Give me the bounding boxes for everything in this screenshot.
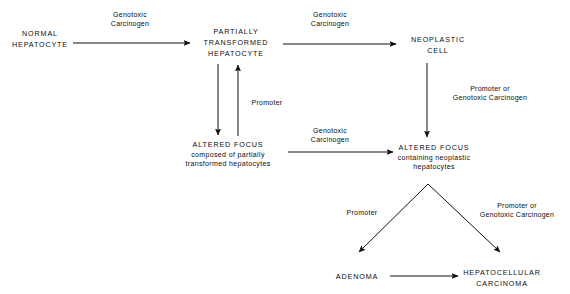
edge-label-promoter-or-genotoxic-carcinogen-2: Promoter or Genotoxic Carcinogen xyxy=(480,202,554,219)
edge-label-gen-3-line-2: Carcinogen xyxy=(311,136,349,144)
edge-label-gen-2-line-1: Genotoxic xyxy=(313,11,347,18)
node-adenoma-line-1: ADENOMA xyxy=(336,272,378,281)
node-altered-focus-a-line-1: ALTERED FOCUS xyxy=(193,140,264,149)
node-hcc-line-2: CARCINOMA xyxy=(476,279,528,288)
edge-label-gen-2-line-2: Carcinogen xyxy=(311,20,349,28)
node-altered-focus-b-line-2: containing neoplastic xyxy=(398,154,471,162)
edge-label-promoter-or-genotoxic-carcinogen-1: Promoter or Genotoxic Carcinogen xyxy=(453,85,527,102)
node-partially-transformed-line-1: PARTIALLY xyxy=(213,27,258,36)
node-normal-hepatocyte-line-1: NORMAL xyxy=(22,29,58,38)
node-normal-hepatocyte: NORMAL HEPATOCYTE xyxy=(12,29,68,49)
edge-label-promoter-fork: Promoter xyxy=(347,209,378,216)
node-altered-focus-b-line-1: ALTERED FOCUS xyxy=(399,143,470,152)
flow-diagram: NORMAL HEPATOCYTE PARTIALLY TRANSFORMED … xyxy=(0,0,570,294)
edge-label-gen-1-line-1: Genotoxic xyxy=(113,11,147,18)
node-hepatocellular-carcinoma: HEPATOCELLULAR CARCINOMA xyxy=(463,268,540,288)
edge-label-genotoxic-carcinogen-1: Genotoxic Carcinogen xyxy=(111,11,149,28)
edge-label-promoter-fork-line-1: Promoter xyxy=(347,209,378,216)
node-altered-focus-b-line-3: hepatocytes xyxy=(413,163,455,171)
node-partially-transformed-line-2: TRANSFORMED xyxy=(204,38,269,47)
edge-altered-focus-neoplastic-to-adenoma xyxy=(359,184,428,252)
edge-label-genotoxic-carcinogen-2: Genotoxic Carcinogen xyxy=(311,11,349,28)
edge-label-pog-2-line-1: Promoter or xyxy=(497,202,537,209)
edge-label-promoter-vertical: Promoter xyxy=(252,99,283,106)
node-altered-focus-partially-transformed: ALTERED FOCUS composed of partially tran… xyxy=(185,140,270,168)
node-hcc-line-1: HEPATOCELLULAR xyxy=(463,268,540,277)
node-neoplastic-cell: NEOPLASTIC CELL xyxy=(411,35,465,55)
edge-label-gen-3-line-1: Genotoxic xyxy=(313,127,347,134)
node-altered-focus-a-line-3: transformed hepatocytes xyxy=(185,160,270,168)
node-partially-transformed-hepatocyte: PARTIALLY TRANSFORMED HEPATOCYTE xyxy=(204,27,269,58)
edge-label-pog-1-line-2: Genotoxic Carcinogen xyxy=(453,94,527,102)
node-adenoma: ADENOMA xyxy=(336,272,378,281)
edge-altered-focus-neoplastic-to-hcc xyxy=(428,184,500,252)
diagram-canvas: NORMAL HEPATOCYTE PARTIALLY TRANSFORMED … xyxy=(0,0,570,294)
edge-label-pog-2-line-2: Genotoxic Carcinogen xyxy=(480,211,554,219)
node-neoplastic-cell-line-1: NEOPLASTIC xyxy=(411,35,465,44)
node-altered-focus-a-line-2: composed of partially xyxy=(191,151,265,159)
edge-label-genotoxic-carcinogen-3: Genotoxic Carcinogen xyxy=(311,127,349,144)
node-partially-transformed-line-3: HEPATOCYTE xyxy=(208,49,264,58)
edge-label-pog-1-line-1: Promoter or xyxy=(470,85,510,92)
node-neoplastic-cell-line-2: CELL xyxy=(427,46,448,55)
edge-label-promoter-vertical-line-1: Promoter xyxy=(252,99,283,106)
node-altered-focus-neoplastic: ALTERED FOCUS containing neoplastic hepa… xyxy=(398,143,471,171)
node-normal-hepatocyte-line-2: HEPATOCYTE xyxy=(12,40,68,49)
edge-label-gen-1-line-2: Carcinogen xyxy=(111,20,149,28)
